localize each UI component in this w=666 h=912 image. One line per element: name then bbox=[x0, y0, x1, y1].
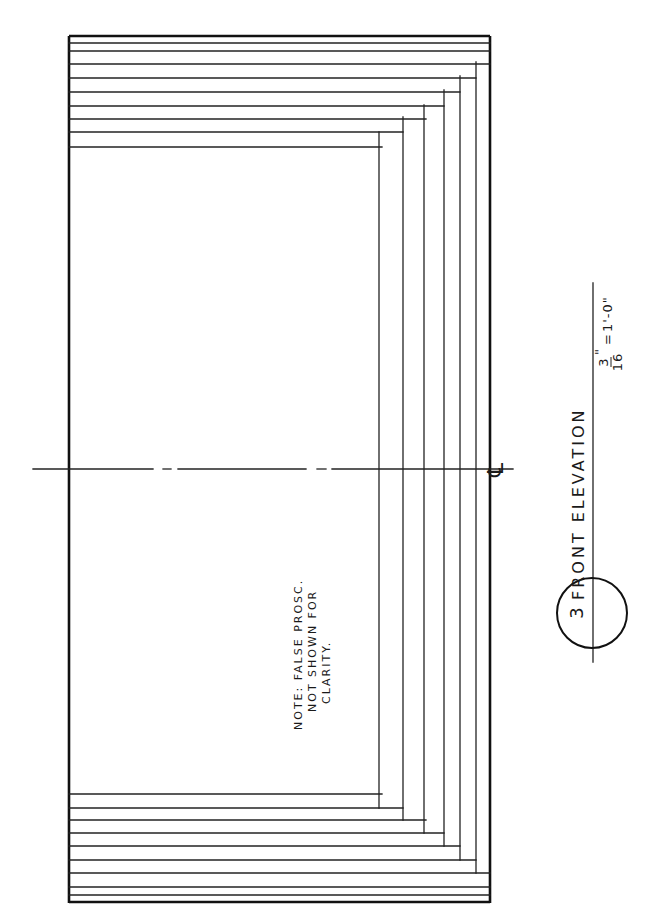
top-border-lines bbox=[69, 43, 490, 147]
scale-full: 1'-0" bbox=[600, 296, 615, 332]
centerline-symbol-icon: ℄ bbox=[483, 462, 508, 478]
note-line-3: CLARITY. bbox=[320, 641, 333, 704]
portal-legs bbox=[379, 62, 476, 873]
note-line-1: NOTE: FALSE PROSC. bbox=[292, 579, 305, 730]
note-text: NOTE: FALSE PROSC. NOT SHOWN FOR CLARITY… bbox=[292, 579, 333, 730]
scale-inch-mark: " bbox=[592, 348, 607, 355]
drawing-sheet: ℄ NOTE: FALSE PROSC. NOT SHOWN FOR CLARI… bbox=[0, 0, 666, 912]
svg-text:℄: ℄ bbox=[483, 462, 508, 478]
title-block: 3 FRONT ELEVATION 3 16 " = 1'-0" bbox=[557, 283, 627, 662]
note-line-2: NOT SHOWN FOR bbox=[306, 590, 319, 712]
bottom-border-lines bbox=[69, 794, 490, 895]
scale-label: 3 16 " = 1'-0" bbox=[592, 296, 625, 371]
detail-number: 3 bbox=[566, 607, 587, 618]
scale-equals: = bbox=[600, 333, 615, 345]
drawing-title: FRONT ELEVATION bbox=[569, 407, 588, 600]
scale-denominator: 16 bbox=[610, 353, 625, 372]
scale-numerator: 3 bbox=[596, 357, 611, 366]
